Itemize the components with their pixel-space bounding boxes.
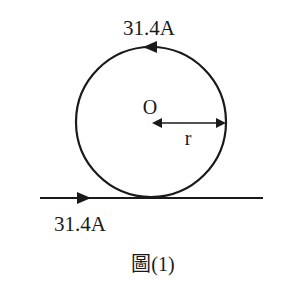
loop-direction-arrow-icon — [143, 41, 157, 53]
loop-current-label: 31.4A — [123, 16, 176, 40]
figure-caption: 圖(1) — [131, 253, 174, 276]
radius-label: r — [185, 127, 192, 149]
figure-canvas: 31.4A O r 31.4A 圖(1) — [0, 0, 283, 282]
radius-arrow-left-icon — [152, 118, 162, 128]
wire-current-label: 31.4A — [54, 212, 107, 236]
current-loop — [76, 47, 226, 197]
center-label: O — [143, 96, 157, 118]
wire-direction-arrow-icon — [77, 192, 91, 204]
radius-arrow-right-icon — [216, 118, 226, 128]
